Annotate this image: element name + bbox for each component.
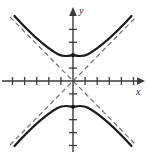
y-axis-arrowhead: [69, 7, 77, 16]
hyperbola-figure: x y: [0, 0, 148, 155]
x-axis-arrowhead: [137, 77, 145, 85]
upper-vertex-point: [71, 53, 75, 57]
plot-canvas: x y: [0, 0, 148, 155]
y-axis-label: y: [78, 5, 84, 16]
lower-vertex-point: [71, 105, 75, 109]
x-axis-label: x: [135, 86, 141, 97]
